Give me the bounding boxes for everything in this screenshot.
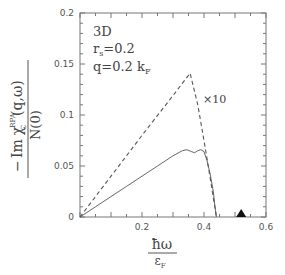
- y-tick-label: 0: [68, 212, 74, 222]
- x-tick-label: 0.2: [135, 222, 149, 232]
- y-tick-label: 0.2: [60, 8, 74, 18]
- x-axis-label-numerator: ħω: [152, 236, 172, 252]
- x-tick-label: 0.6: [259, 222, 274, 232]
- y-axis-label-denominator: N(0): [28, 110, 43, 140]
- annotation-scale-factor: ×10: [203, 93, 226, 106]
- dashed-curve-x10: [80, 73, 216, 217]
- y-tick-label: 0.05: [54, 161, 74, 171]
- annotation-rs: rs=0.2: [93, 41, 135, 58]
- triangle-marker-icon: [236, 209, 246, 217]
- annotation-q: q=0.2 kF: [93, 59, 151, 76]
- data-markers: [236, 209, 246, 217]
- data-series: [80, 73, 216, 217]
- solid-curve-rpa: [80, 150, 216, 217]
- annotation-dimension: 3D: [93, 24, 112, 39]
- y-tick-label: 0.15: [54, 59, 74, 69]
- axis-tick-labels: 0.20.40.600.050.10.150.2: [54, 8, 273, 232]
- x-axis-label-denominator: εF: [154, 254, 165, 270]
- y-tick-label: 0.1: [60, 110, 74, 120]
- y-axis-label: − ImχRPAC(q,ω) N(0): [9, 60, 43, 178]
- y-axis-label-numerator: ImχRPAC(q,ω): [9, 80, 28, 158]
- y-axis-label-prefix: −: [9, 160, 25, 172]
- chart: 0.20.40.600.050.10.150.2 3D rs=0.2 q=0.2…: [0, 0, 285, 275]
- x-tick-label: 0.4: [197, 222, 212, 232]
